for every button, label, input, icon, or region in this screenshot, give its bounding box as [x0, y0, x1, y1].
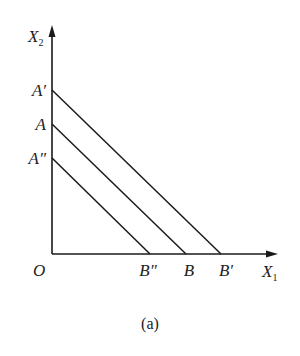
label-a: A [35, 115, 47, 134]
label-a-prime: A′ [31, 81, 46, 100]
label-a-double-prime: A″ [28, 149, 47, 168]
budget-line-diagram: X2 A′ A A″ O B″ B B′ X1 (a) [0, 0, 300, 356]
figure-caption: (a) [141, 315, 159, 333]
label-b-double-prime: B″ [139, 261, 157, 280]
line-a-b [52, 124, 186, 254]
origin-label: O [33, 261, 45, 280]
x-axis-arrow-icon [266, 251, 278, 258]
x-axis-label: X1 [261, 262, 277, 283]
y-axis-label: X2 [27, 27, 43, 48]
label-b: B [184, 261, 195, 280]
y-axis-arrow-icon [49, 25, 56, 37]
line-a-prime-b-prime [52, 90, 221, 254]
label-b-prime: B′ [219, 261, 233, 280]
